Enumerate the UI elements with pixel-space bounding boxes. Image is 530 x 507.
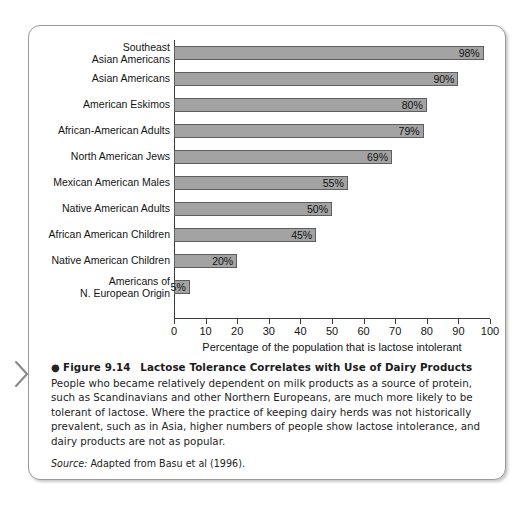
bar-value-label: 45% <box>170 228 316 242</box>
bar-row: American Eskimos80% <box>29 92 507 118</box>
figure-title: Lactose Tolerance Correlates with Use of… <box>140 361 472 373</box>
bar-category-label: Asian Americans <box>20 73 170 85</box>
bar-row: North American Jews69% <box>29 144 507 170</box>
bar-value-label: 55% <box>170 176 348 190</box>
bar-category-label: American Eskimos <box>20 99 170 111</box>
bar-category-label: North American Jews <box>20 151 170 163</box>
bar-value-label: 80% <box>170 98 427 112</box>
x-tick <box>300 319 301 324</box>
x-tick-label: 50 <box>326 325 338 337</box>
bar-row: African American Children45% <box>29 222 507 248</box>
x-tick-label: 40 <box>294 325 306 337</box>
source-label: Source: <box>51 458 87 469</box>
bar-track: 5% <box>174 280 190 294</box>
x-tick-label: 30 <box>263 325 275 337</box>
bar-row: Native American Adults50% <box>29 196 507 222</box>
bar-track: 45% <box>174 228 316 242</box>
bar-track: 69% <box>174 150 392 164</box>
bar-category-label: Native American Adults <box>20 203 170 215</box>
caption-bullet-icon: ● <box>51 362 60 373</box>
x-tick <box>458 319 459 324</box>
bar-value-label: 90% <box>170 72 458 86</box>
x-tick-label: 90 <box>452 325 464 337</box>
bar-track: 20% <box>174 254 237 268</box>
figure-body-text: People who became relatively dependent o… <box>51 377 480 447</box>
bar-track: 50% <box>174 202 332 216</box>
bar-category-label: African-American Adults <box>20 125 170 137</box>
bar-value-label: 79% <box>170 124 424 138</box>
x-tick-label: 0 <box>171 325 177 337</box>
bar-row: Southeast Asian Americans98% <box>29 40 507 66</box>
caption-paragraph: ● Figure 9.14 Lactose Tolerance Correlat… <box>51 360 489 449</box>
source-value: Adapted from Basu et al (1996). <box>87 458 245 469</box>
figure-container: Southeast Asian Americans98%Asian Americ… <box>28 25 506 480</box>
x-tick-label: 70 <box>389 325 401 337</box>
bar-chart: Southeast Asian Americans98%Asian Americ… <box>29 26 507 356</box>
figure-source: Source: Adapted from Basu et al (1996). <box>51 457 489 470</box>
x-tick <box>174 319 175 324</box>
x-tick <box>269 319 270 324</box>
bar-track: 80% <box>174 98 427 112</box>
bar-track: 79% <box>174 124 424 138</box>
x-tick <box>206 319 207 324</box>
bar-category-label: Mexican American Males <box>20 177 170 189</box>
x-tick-label: 60 <box>357 325 369 337</box>
figure-number: Figure 9.14 <box>63 361 130 373</box>
bar-row: African-American Adults79% <box>29 118 507 144</box>
bar-value-label: 20% <box>170 254 237 268</box>
caption-chevron-icon <box>14 360 30 388</box>
bar-category-label: African American Children <box>20 229 170 241</box>
bar-category-label: Native American Children <box>20 255 170 267</box>
bar-row: Asian Americans90% <box>29 66 507 92</box>
x-axis-title: Percentage of the population that is lac… <box>174 341 490 353</box>
bar-track: 90% <box>174 72 458 86</box>
bar-value-label: 5% <box>160 280 190 294</box>
x-tick <box>237 319 238 324</box>
bar-row: Mexican American Males55% <box>29 170 507 196</box>
x-tick <box>490 319 491 324</box>
bar-category-label: Americans of N. European Origin <box>20 276 170 299</box>
x-tick-label: 10 <box>199 325 211 337</box>
x-tick <box>364 319 365 324</box>
bar-category-label: Southeast Asian Americans <box>20 42 170 65</box>
bar-value-label: 50% <box>170 202 332 216</box>
bar-row: Americans of N. European Origin5% <box>29 274 507 300</box>
figure-caption: ● Figure 9.14 Lactose Tolerance Correlat… <box>51 360 489 470</box>
x-tick <box>427 319 428 324</box>
bar-track: 98% <box>174 46 484 60</box>
bar-track: 55% <box>174 176 348 190</box>
x-tick <box>332 319 333 324</box>
x-tick-label: 80 <box>421 325 433 337</box>
bar-value-label: 69% <box>170 150 392 164</box>
x-tick-label: 20 <box>231 325 243 337</box>
bar-row: Native American Children20% <box>29 248 507 274</box>
x-tick <box>395 319 396 324</box>
bar-value-label: 98% <box>170 46 484 60</box>
x-tick-label: 100 <box>481 325 499 337</box>
